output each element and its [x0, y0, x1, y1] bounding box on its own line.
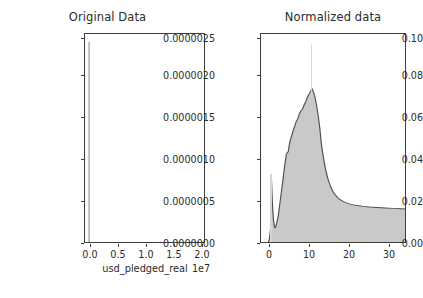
right-ytick-label-3: 0.06 [385, 112, 423, 123]
normalized-density-curve [261, 34, 406, 243]
matplotlib-figure: Original Data 0.0000000 0.0000005 0.0000… [0, 0, 423, 298]
right-ytick-label-5: 0.10 [385, 33, 423, 44]
original-data-density-spike-core [89, 42, 90, 243]
left-xaxis-offset-text: 1e7 [192, 263, 210, 274]
left-ytick-label-2: 0.0000010 [139, 154, 215, 165]
panel-original-data: Original Data 0.0000000 0.0000005 0.0000… [0, 0, 215, 298]
right-ytick-label-2: 0.04 [385, 154, 423, 165]
panel-normalized-data: Normalized data 0.00 0.02 0.04 0.06 0.08… [215, 0, 423, 298]
left-axes-area [84, 33, 205, 243]
left-xtick-mark-4 [202, 244, 203, 248]
left-ytick-label-4: 0.0000020 [139, 70, 215, 81]
left-ytick-mark-4 [81, 75, 85, 76]
left-ytick-label-5: 0.0000025 [139, 33, 215, 44]
left-xaxis-label: usd_pledged_real [102, 263, 188, 274]
right-ytick-mark-0 [257, 243, 261, 244]
left-ytick-mark-1 [81, 201, 85, 202]
left-xtick-label-1: 0.5 [110, 249, 125, 260]
right-xtick-label-0: 0 [266, 249, 272, 260]
right-ytick-label-0: 0.00 [385, 238, 423, 249]
right-xtick-label-2: 20 [343, 249, 355, 260]
left-xtick-label-2: 1.0 [138, 249, 153, 260]
normalized-zero-bar-spike [270, 174, 272, 243]
left-xtick-label-0: 0.0 [82, 249, 97, 260]
left-ytick-label-3: 0.0000015 [139, 112, 215, 123]
right-xtick-mark-3 [389, 244, 390, 248]
right-ytick-mark-2 [257, 159, 261, 160]
left-ytick-label-1: 0.0000005 [139, 196, 215, 207]
right-xtick-mark-1 [309, 244, 310, 248]
left-ytick-label-0: 0.0000000 [139, 238, 215, 249]
left-ytick-mark-0 [81, 243, 85, 244]
left-plot-title: Original Data [0, 10, 215, 24]
normalized-peak-highlight [311, 44, 313, 94]
left-xtick-label-4: 2.0 [194, 249, 209, 260]
left-xtick-label-3: 1.5 [166, 249, 181, 260]
left-ytick-mark-5 [81, 38, 85, 39]
left-xtick-mark-2 [146, 244, 147, 248]
right-plot-title: Normalized data [260, 10, 406, 24]
right-ytick-label-1: 0.02 [385, 196, 423, 207]
left-ytick-mark-3 [81, 117, 85, 118]
right-ytick-mark-1 [257, 201, 261, 202]
right-axes-area [260, 33, 406, 243]
right-xtick-mark-2 [349, 244, 350, 248]
right-ytick-label-4: 0.08 [385, 70, 423, 81]
right-xtick-label-3: 30 [383, 249, 395, 260]
left-ytick-mark-2 [81, 159, 85, 160]
right-xtick-label-1: 10 [303, 249, 315, 260]
right-ytick-mark-4 [257, 75, 261, 76]
left-xtick-mark-1 [118, 244, 119, 248]
left-xtick-mark-3 [174, 244, 175, 248]
right-ytick-mark-5 [257, 38, 261, 39]
right-ytick-mark-3 [257, 117, 261, 118]
left-xtick-mark-0 [90, 244, 91, 248]
right-xtick-mark-0 [269, 244, 270, 248]
